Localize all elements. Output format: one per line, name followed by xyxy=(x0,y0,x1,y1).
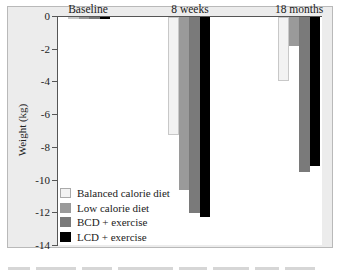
legend-swatch xyxy=(60,188,71,198)
bar xyxy=(179,17,190,190)
bar xyxy=(100,17,111,19)
bar xyxy=(310,17,321,166)
legend-item-balanced-calorie-diet: Balanced calorie diet xyxy=(60,186,170,201)
y-axis-line xyxy=(57,16,58,246)
legend-label: LCD + exercise xyxy=(77,231,147,243)
y-tick-label: -6 xyxy=(20,108,50,120)
y-tick-label: -14 xyxy=(20,239,50,251)
y-tick-label: 0 xyxy=(20,10,50,22)
bar xyxy=(79,17,90,19)
y-tick-label: -4 xyxy=(20,75,50,87)
bar xyxy=(278,17,289,81)
bar xyxy=(289,17,300,46)
bar xyxy=(168,17,179,135)
legend-swatch xyxy=(60,217,71,227)
bar xyxy=(299,17,310,172)
category-label-18-months: 18 months xyxy=(275,3,323,15)
y-tick-label: -10 xyxy=(20,174,50,186)
bar xyxy=(68,17,79,19)
legend: Balanced calorie diet Low calorie diet B… xyxy=(60,186,170,244)
legend-label: Low calorie diet xyxy=(77,202,149,214)
legend-item-bcd-exercise: BCD + exercise xyxy=(60,215,170,230)
category-label-8-weeks: 8 weeks xyxy=(171,3,208,15)
bar xyxy=(189,17,200,213)
legend-label: Balanced calorie diet xyxy=(77,187,170,199)
legend-item-low-calorie-diet: Low calorie diet xyxy=(60,201,170,216)
legend-item-lcd-exercise: LCD + exercise xyxy=(60,230,170,245)
category-label-baseline: Baseline xyxy=(68,3,108,15)
bar xyxy=(89,17,100,19)
x-axis-line xyxy=(57,16,322,17)
bar xyxy=(200,17,211,217)
y-tick-label: -2 xyxy=(20,43,50,55)
figure-caption-blurred xyxy=(8,258,333,266)
y-tick-label: -12 xyxy=(20,206,50,218)
y-tick-label: -8 xyxy=(20,141,50,153)
legend-swatch xyxy=(60,232,71,242)
legend-label: BCD + exercise xyxy=(77,216,147,228)
legend-swatch xyxy=(60,203,71,213)
